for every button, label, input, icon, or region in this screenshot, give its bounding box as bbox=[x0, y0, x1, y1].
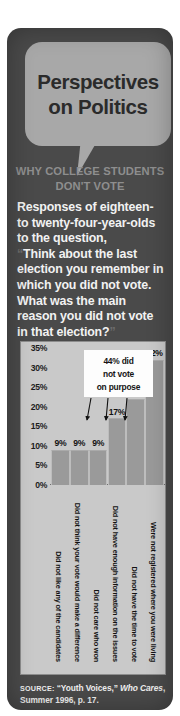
y-tick-label: 15% bbox=[31, 421, 47, 431]
bar-chart: 35%30%25%20%15%10%5%0% 9%9%9%17%22%32% bbox=[20, 341, 166, 675]
y-axis-labels: 35%30%25%20%15%10%5%0% bbox=[21, 342, 49, 492]
source-citation: SOURCE: “Youth Voices,” Who Cares, Summe… bbox=[20, 683, 168, 706]
source-italic: Who Cares bbox=[120, 683, 163, 693]
x-axis-label: Did not have enough information on the i… bbox=[111, 492, 120, 662]
callout-box: 44% did not vote on purpose bbox=[84, 350, 153, 397]
subtitle-line2: DON'T VOTE bbox=[15, 179, 165, 194]
body-quote: Think about the last election you rememb… bbox=[17, 247, 164, 339]
speech-bubble: Perspectives on Politics bbox=[25, 42, 171, 146]
callout-line2: not vote bbox=[103, 369, 134, 379]
y-tick-label: 10% bbox=[31, 441, 47, 451]
y-tick-label: 30% bbox=[31, 363, 47, 373]
plot-area: 9%9%9%17%22%32% 44% did not vote o bbox=[51, 348, 164, 485]
bar-value-label: 9% bbox=[70, 438, 89, 448]
source-quoted: “Youth Voices,” bbox=[57, 683, 118, 693]
x-axis-label: Did not have the time to vote bbox=[130, 492, 139, 662]
bar bbox=[126, 399, 145, 485]
page-title-line1: Perspectives bbox=[37, 69, 159, 94]
infographic-root: Perspectives on Politics WHY COLLEGE STU… bbox=[0, 0, 180, 716]
subtitle-line1: WHY COLLEGE STUDENTS bbox=[15, 164, 165, 179]
y-tick-label: 25% bbox=[31, 382, 47, 392]
dark-panel: Perspectives on Politics WHY COLLEGE STU… bbox=[7, 28, 173, 710]
x-axis-label: Did not like any of the candidates bbox=[54, 492, 63, 662]
y-tick-label: 0% bbox=[35, 480, 47, 490]
page-title-line2: on Politics bbox=[48, 94, 147, 119]
quote-close-mark: ” bbox=[109, 325, 115, 339]
body-copy: Responses of eighteen- to twenty-four-ye… bbox=[17, 200, 167, 340]
callout-line3: on purpose bbox=[97, 382, 141, 392]
body-intro: Responses of eighteen- to twenty-four-ye… bbox=[17, 200, 155, 245]
x-axis-labels: Did not like any of the candidatesDid no… bbox=[51, 492, 164, 674]
bar-value-label: 9% bbox=[51, 438, 70, 448]
bar bbox=[70, 450, 89, 485]
source-label: SOURCE: bbox=[20, 684, 55, 693]
y-tick-label: 35% bbox=[31, 343, 47, 353]
x-axis-label: Were not registered where you were livin… bbox=[149, 492, 158, 662]
bar-value-label: 17% bbox=[108, 407, 127, 417]
bar bbox=[108, 418, 127, 485]
bar-value-label: 9% bbox=[89, 438, 108, 448]
x-axis-label: Did not think your vote would make a dif… bbox=[73, 492, 82, 662]
bar bbox=[89, 450, 108, 485]
y-tick-label: 5% bbox=[35, 460, 47, 470]
speech-bubble-group: Perspectives on Politics bbox=[19, 28, 171, 180]
subtitle: WHY COLLEGE STUDENTS DON'T VOTE bbox=[15, 164, 165, 194]
bar bbox=[51, 450, 70, 485]
y-tick-label: 20% bbox=[31, 402, 47, 412]
callout-line1: 44% did bbox=[103, 356, 133, 366]
x-axis-label: Did not care who won bbox=[92, 492, 101, 662]
